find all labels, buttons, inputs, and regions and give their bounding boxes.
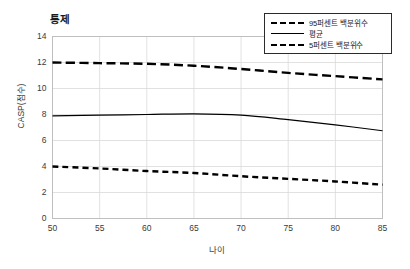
legend-label-mean: 평균 <box>309 28 323 39</box>
legend-swatch-dashed-long-icon <box>269 18 305 28</box>
legend-swatch-dashed-short-icon <box>269 40 305 50</box>
legend-item-p95: 95퍼센트 백분위수 <box>269 17 387 28</box>
legend-label-p95: 95퍼센트 백분위수 <box>309 17 367 28</box>
chart-figure: 통제 CASP(점수) 나이 02468101214 5055606570758… <box>0 0 410 269</box>
chart-legend: 95퍼센트 백분위수 평균 5퍼센트 백분위수 <box>264 13 392 54</box>
legend-label-p5: 5퍼센트 백분위수 <box>309 39 363 50</box>
legend-swatch-solid-icon <box>269 29 305 39</box>
legend-item-p5: 5퍼센트 백분위수 <box>269 39 387 50</box>
legend-item-mean: 평균 <box>269 28 387 39</box>
